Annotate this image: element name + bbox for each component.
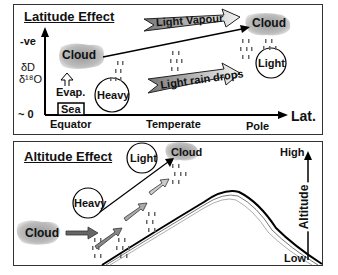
flow-arrow-1 (66, 227, 98, 239)
y-axis-bottom-label: ~ 0 (18, 108, 34, 120)
altitude-effect-panel: Altitude Effect Cloud Cloud Heavy Light … (13, 141, 323, 266)
x-tick-equator: Equator (50, 118, 92, 130)
flow-arrow-4 (149, 179, 169, 195)
sea-label: Sea (61, 103, 81, 115)
rain-drops (92, 164, 187, 258)
cloud-label-pole: Cloud (252, 16, 286, 30)
cloud-label-equator: Cloud (62, 48, 96, 62)
y-axis-arrow-icon (41, 27, 49, 37)
altitude-arrow-icon (304, 151, 312, 160)
x-axis-label: Lat. (291, 108, 316, 124)
latitude-effect-title: Latitude Effect (24, 9, 114, 24)
x-tick-temperate: Temperate (146, 118, 201, 130)
evaporation-arrow-icon (61, 73, 73, 86)
light-label: Light (258, 57, 285, 69)
altitude-axis-label: Altitude (297, 183, 311, 232)
heavy-label: Heavy (74, 197, 106, 209)
cloud-label-low: Cloud (25, 226, 59, 240)
flow-arrow-2 (95, 228, 122, 249)
x-tick-pole: Pole (246, 120, 269, 132)
altitude-high-label: High (280, 146, 304, 158)
x-axis-arrow-icon (278, 111, 288, 119)
y-axis-top-label: -ve (20, 35, 36, 47)
altitude-effect-title: Altitude Effect (24, 149, 112, 164)
cloud-label-high: Cloud (171, 146, 202, 158)
altitude-low-label: Low (284, 252, 306, 264)
y-axis-label-dd: δD (21, 61, 35, 73)
heavy-label: Heavy (97, 89, 129, 101)
flow-arrow-3 (124, 203, 147, 221)
evap-label: Evap. (56, 86, 85, 98)
light-label: Light (130, 152, 157, 164)
y-axis-label-d18o: δ¹⁸O (19, 73, 42, 85)
latitude-effect-panel: Latitude Effect -ve δD δ¹⁸O ~ 0 Equator … (13, 4, 323, 135)
